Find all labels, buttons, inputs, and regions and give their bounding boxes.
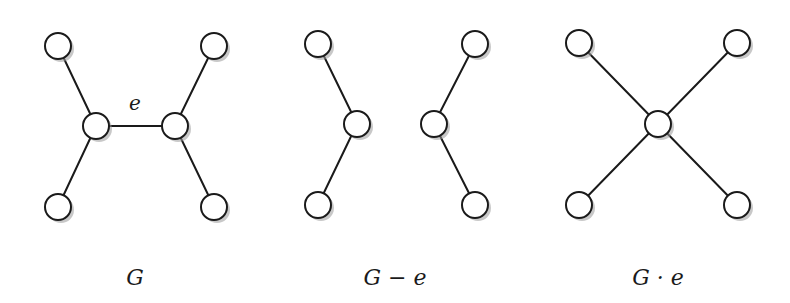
- node-u: [344, 111, 370, 137]
- node-v: [421, 111, 447, 137]
- node-c: [201, 33, 227, 59]
- node-c: [724, 30, 750, 56]
- graph-figure: e G G − e G · e: [0, 0, 790, 303]
- node-b: [305, 192, 331, 218]
- graph-G-contract-e: [566, 30, 753, 221]
- node-d: [462, 192, 488, 218]
- node-b: [566, 192, 592, 218]
- node-v: [162, 113, 188, 139]
- node-a: [45, 33, 71, 59]
- node-c: [462, 31, 488, 57]
- edge-label-e: e: [129, 91, 141, 115]
- graph-G: [45, 33, 230, 223]
- node-a: [566, 30, 592, 56]
- edge-b-w: [579, 124, 658, 205]
- node-w: [645, 111, 671, 137]
- node-a: [305, 31, 331, 57]
- caption-G-minus-e: G − e: [363, 265, 426, 290]
- node-b: [45, 194, 71, 220]
- caption-G: G: [126, 265, 144, 290]
- node-u: [83, 113, 109, 139]
- node-d: [201, 194, 227, 220]
- node-d: [724, 192, 750, 218]
- caption-G-contract-e: G · e: [632, 265, 684, 290]
- edge-w-c: [658, 43, 737, 124]
- graph-G-minus-e: [305, 31, 491, 221]
